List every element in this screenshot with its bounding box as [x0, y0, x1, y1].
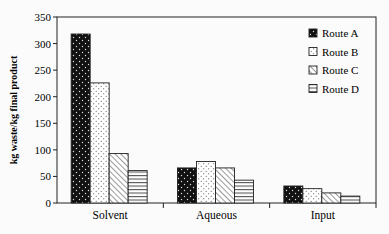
legend-swatch-icon [309, 29, 317, 37]
bar-route-a-input [284, 186, 303, 203]
bar-route-b-input [303, 189, 322, 203]
bar-route-b-aqueous [197, 162, 216, 203]
legend-swatch-icon [309, 48, 317, 56]
bar-chart: 050100150200250300350kg waste/kg final p… [0, 0, 389, 234]
legend-swatch-icon [309, 66, 317, 74]
x-category-label: Aqueous [196, 209, 237, 222]
legend-entry: Route C [322, 64, 358, 76]
y-axis-label: kg waste/kg final product [8, 55, 19, 164]
bar-route-c-solvent [109, 154, 128, 203]
y-tick-label: 50 [40, 170, 52, 182]
bar-route-d-input [341, 196, 360, 203]
y-tick-label: 100 [35, 144, 52, 156]
x-category-label: Input [311, 209, 336, 222]
legend-entry: Route D [322, 83, 359, 95]
x-category-label: Solvent [93, 209, 129, 221]
bar-route-d-aqueous [235, 180, 254, 203]
y-tick-label: 350 [35, 11, 52, 23]
bar-route-c-aqueous [216, 168, 235, 203]
y-tick-label: 150 [35, 117, 52, 129]
y-tick-label: 200 [35, 91, 52, 103]
bar-route-a-solvent [71, 34, 90, 203]
y-tick-label: 300 [35, 38, 52, 50]
bar-route-d-solvent [128, 171, 147, 203]
bar-route-c-input [322, 193, 341, 203]
y-tick-label: 250 [35, 64, 52, 76]
bar-route-a-aqueous [178, 168, 197, 203]
legend-entry: Route A [322, 27, 358, 39]
legend-entry: Route B [322, 46, 358, 58]
y-tick-label: 0 [46, 197, 52, 209]
plot-area: 050100150200250300350kg waste/kg final p… [8, 11, 376, 222]
bar-route-b-solvent [90, 83, 109, 203]
legend-swatch-icon [309, 85, 317, 93]
